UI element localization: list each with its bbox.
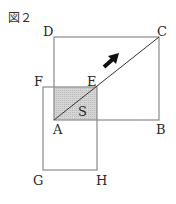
label-d: D [43, 24, 53, 39]
label-s: S [78, 104, 87, 119]
label-e: E [87, 74, 97, 89]
arrow-icon [104, 53, 119, 67]
label-h: H [96, 173, 107, 188]
figure-title: 図２ [8, 11, 32, 25]
label-b: B [156, 122, 166, 137]
label-g: G [33, 173, 43, 188]
label-c: C [157, 24, 167, 39]
diagonal-ac [54, 37, 159, 120]
label-a: A [52, 122, 63, 137]
figure-canvas: 図２ D C F E S A B G H [0, 0, 176, 204]
label-f: F [34, 74, 43, 89]
